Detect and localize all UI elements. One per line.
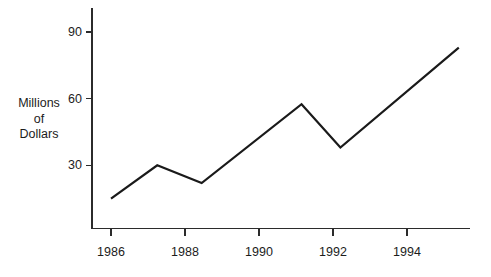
- y-axis-tick-label: 90: [48, 25, 82, 39]
- x-axis-ticks: [111, 229, 407, 236]
- y-axis-tick-label: 60: [48, 92, 82, 106]
- x-axis-tick-label: 1994: [393, 245, 421, 259]
- y-axis-title-line-3: Dollars: [10, 127, 68, 143]
- y-axis-title-line-2: of: [10, 112, 68, 128]
- chart-plot-area: [0, 0, 491, 277]
- x-axis-tick-label: 1986: [97, 245, 125, 259]
- x-axis-tick-label: 1988: [171, 245, 199, 259]
- y-axis-tick-label: 30: [48, 158, 82, 172]
- y-axis-ticks: [86, 32, 92, 165]
- line-chart: Millions of Dollars 306090 1986198819901…: [0, 0, 491, 277]
- x-axis-tick-label: 1990: [245, 245, 273, 259]
- x-axis-tick-label: 1992: [319, 245, 347, 259]
- data-series-line: [111, 48, 459, 199]
